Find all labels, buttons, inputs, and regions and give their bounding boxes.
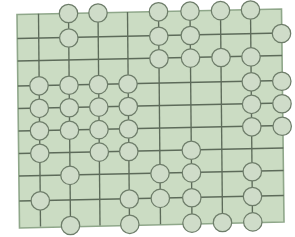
lattice-node[interactable] xyxy=(183,189,201,207)
lattice-node[interactable] xyxy=(150,50,168,68)
lattice-node[interactable] xyxy=(150,27,168,45)
lattice-node[interactable] xyxy=(119,97,137,115)
lattice-node[interactable] xyxy=(121,215,139,233)
lattice-node[interactable] xyxy=(89,4,107,22)
lattice-node[interactable] xyxy=(31,144,49,162)
lattice-node[interactable] xyxy=(211,1,229,19)
lattice-node[interactable] xyxy=(242,48,260,66)
lattice-node[interactable] xyxy=(61,166,79,184)
lattice-node[interactable] xyxy=(213,213,231,231)
lattice-node[interactable] xyxy=(119,120,137,138)
lattice-node[interactable] xyxy=(30,99,48,117)
lattice-node[interactable] xyxy=(181,2,199,20)
lattice-node[interactable] xyxy=(60,121,78,139)
lattice-node[interactable] xyxy=(241,1,259,19)
lattice-node[interactable] xyxy=(243,187,261,205)
lattice-node[interactable] xyxy=(120,190,138,208)
lattice-node[interactable] xyxy=(30,77,48,95)
lattice-node[interactable] xyxy=(90,98,108,116)
lattice-node[interactable] xyxy=(243,118,261,136)
lattice-node[interactable] xyxy=(273,117,291,135)
lattice-node[interactable] xyxy=(273,72,291,90)
lattice-node[interactable] xyxy=(89,75,107,93)
lattice-node[interactable] xyxy=(272,24,290,42)
lattice-node[interactable] xyxy=(60,76,78,94)
lattice-node[interactable] xyxy=(90,120,108,138)
lattice-node[interactable] xyxy=(151,189,169,207)
lattice-node[interactable] xyxy=(90,143,108,161)
lattice-node[interactable] xyxy=(242,95,260,113)
lattice-node[interactable] xyxy=(149,3,167,21)
lattice-node[interactable] xyxy=(61,216,79,234)
lattice-node[interactable] xyxy=(242,73,260,91)
lattice-node[interactable] xyxy=(30,122,48,140)
lattice-node[interactable] xyxy=(273,95,291,113)
lattice-node[interactable] xyxy=(60,29,78,47)
lattice-node[interactable] xyxy=(181,26,199,44)
lattice-node[interactable] xyxy=(181,49,199,67)
lattice-svg xyxy=(0,0,295,237)
lattice-node[interactable] xyxy=(212,48,230,66)
lattice-node[interactable] xyxy=(244,213,262,231)
lattice-node[interactable] xyxy=(183,214,201,232)
lattice-node[interactable] xyxy=(182,164,200,182)
lattice-diagram-canvas xyxy=(0,0,295,237)
lattice-node[interactable] xyxy=(120,142,138,160)
lattice-node[interactable] xyxy=(182,141,200,159)
lattice-node[interactable] xyxy=(60,99,78,117)
lattice-node[interactable] xyxy=(31,192,49,210)
lattice-node[interactable] xyxy=(151,164,169,182)
lattice-node[interactable] xyxy=(243,163,261,181)
lattice-node[interactable] xyxy=(59,4,77,22)
lattice-node[interactable] xyxy=(119,75,137,93)
